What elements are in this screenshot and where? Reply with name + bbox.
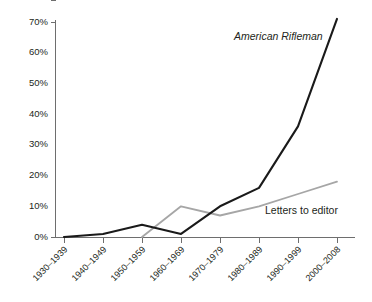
x-axis-tick-label: 1950–1959 [108,244,147,283]
y-axis-tick-label: 0% [34,231,48,242]
x-axis-tick-labels: 1930–19391940–19491950–19591960–19691970… [30,244,342,283]
series-label-american-rifleman: American Rifleman [233,30,323,42]
y-axis-tick-label: 30% [29,138,49,149]
series-label-letters-to-editor: Letters to editor [265,204,338,216]
y-axis-tick-labels: 0%10%20%30%40%50%60%70% [29,16,49,242]
y-axis-tick-marks [51,0,56,238]
x-axis-tick-label: 2000–2008 [303,244,342,283]
x-axis-tick-label: 1980–1989 [225,244,264,283]
x-axis-tick-label: 1930–1939 [30,244,69,283]
y-axis-tick-label: 20% [29,169,49,180]
y-axis-tick-label: 60% [29,46,49,57]
y-axis-tick-label: 10% [29,200,49,211]
y-axis-tick-label: 50% [29,77,49,88]
y-axis-tick-label: 40% [29,108,49,119]
y-axis-tick-label: 70% [29,16,49,27]
x-axis-tick-label: 1940–1949 [69,244,108,283]
x-axis-tick-marks [65,238,338,244]
line-chart: 0%10%20%30%40%50%60%70% 1930–19391940–19… [0,0,372,302]
x-axis-tick-label: 1970–1979 [186,244,225,283]
x-axis-tick-label: 1990–1999 [264,244,303,283]
x-axis-tick-label: 1960–1969 [147,244,186,283]
chart-canvas: 0%10%20%30%40%50%60%70% 1930–19391940–19… [0,0,372,302]
